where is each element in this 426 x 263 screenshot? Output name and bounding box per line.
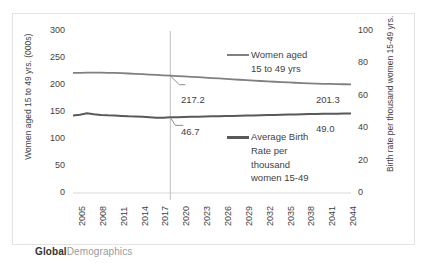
chart-container: Women aged 15 to 49 yrs. (000s) Birth ra… — [12, 13, 415, 245]
value-label-women-aged-2019: 217.2 — [181, 94, 205, 105]
brand-name-bold: Global — [35, 246, 67, 257]
legend-label-birth-rate-line1: Average Birth — [251, 130, 309, 144]
series-birth-rate-line — [73, 113, 351, 118]
legend-label-birth-rate-line2: Rate per — [251, 144, 309, 158]
legend-label-birth-rate: Average Birth Rate per thousand women 15… — [251, 130, 309, 185]
legend-label-women-aged-line2: 15 to 49 yrs — [251, 62, 307, 76]
plot-area — [13, 14, 416, 246]
brand-name-light: Demographics — [67, 246, 133, 257]
legend-swatch-women-aged — [227, 54, 249, 56]
legend-swatch-birth-rate — [227, 136, 249, 139]
series-women-aged-line — [73, 73, 351, 85]
value-label-women-aged-end: 201.3 — [316, 94, 340, 105]
legend-label-women-aged-line1: Women aged — [251, 48, 307, 62]
value-label-birth-rate-end: 49.0 — [316, 123, 335, 134]
callout-leader-birth-rate — [170, 117, 183, 125]
legend-label-birth-rate-line3: thousand — [251, 158, 309, 172]
footer-branding: GlobalDemographics — [35, 246, 132, 257]
legend-label-birth-rate-line4: women 15-49 — [251, 171, 309, 185]
value-label-birth-rate-2019: 46.7 — [181, 126, 200, 137]
legend-label-women-aged: Women aged 15 to 49 yrs — [251, 48, 307, 76]
